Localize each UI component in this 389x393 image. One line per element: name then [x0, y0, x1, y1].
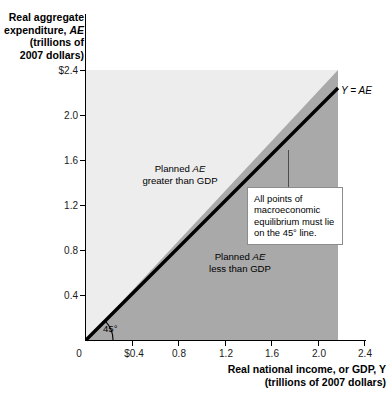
economics-chart-figure: Real aggregateexpenditure, AE(trillions …: [0, 0, 389, 393]
x-tick-label-1-2: 1.2: [202, 348, 250, 359]
note-below-post: less than GDP: [209, 263, 271, 274]
y-tick-1-2: [80, 205, 86, 206]
y-tick-label-group: $2.4 2.0 1.6 1.2 0.8 0.4: [28, 0, 78, 393]
y-tick-0-8: [80, 250, 86, 251]
x-tick-2-4: [364, 340, 365, 346]
callout-leader-line: [288, 150, 289, 188]
x-tick-0-4: [132, 340, 133, 346]
y-tick-label-0-8: 0.8: [34, 245, 78, 256]
x-tick-label-0-4: $0.4: [110, 348, 158, 359]
y-tick-label-2-0: 2.0: [34, 110, 78, 121]
forty-five-degree-arc-icon: [86, 300, 128, 342]
note-above-line: Planned AEgreater than GDP: [117, 163, 243, 186]
x-tick-label-2-4: 2.4: [341, 348, 389, 359]
y-tick-label-2-4: $2.4: [34, 65, 78, 76]
y-tick-label-1-6: 1.6: [34, 155, 78, 166]
line-label-y-equals-ae: Y = AE: [341, 85, 372, 96]
y-tick-1-6: [80, 160, 86, 161]
x-tick-2-0: [318, 340, 319, 346]
x-axis-title-line1: Real national income, or GDP, Y: [228, 363, 386, 375]
x-tick-label-1-6: 1.6: [248, 348, 296, 359]
note-above-pre: Planned: [155, 163, 193, 174]
y-tick-2-4: [80, 70, 86, 71]
y-tick-label-1-2: 1.2: [34, 200, 78, 211]
y-tick-0-4: [80, 295, 86, 296]
x-tick-label-2-0: 2.0: [295, 348, 343, 359]
x-tick-1-6: [271, 340, 272, 346]
x-tick-label-0-8: 0.8: [155, 348, 203, 359]
note-above-em: AE: [193, 163, 206, 174]
x-axis-title: Real national income, or GDP, Y(trillion…: [200, 363, 386, 388]
callout-box: All points of macroeconomic equilibrium …: [247, 187, 343, 245]
y-tick-label-0-4: 0.4: [34, 290, 78, 301]
note-above-post: greater than GDP: [142, 175, 217, 186]
note-below-em: AE: [253, 251, 266, 262]
y-tick-2-0: [80, 115, 86, 116]
note-below-pre: Planned: [215, 251, 253, 262]
x-axis-title-line2: (trillions of 2007 dollars): [265, 376, 386, 388]
y-axis-line: [85, 14, 86, 341]
x-tick-1-2: [225, 340, 226, 346]
x-tick-label-0: 0: [55, 348, 103, 359]
angle-label: 45°: [103, 323, 118, 334]
x-tick-0-8: [178, 340, 179, 346]
note-below-line: Planned AEless than GDP: [182, 251, 298, 274]
